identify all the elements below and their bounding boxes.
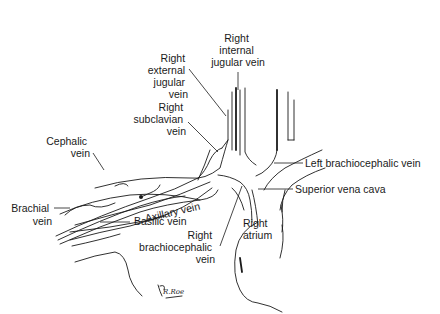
- label-right-brachiocephalic-vein: Right brachiocephalic vein: [139, 229, 215, 265]
- label-cephalic-vein: Cephalic vein: [46, 135, 90, 159]
- label-line: external: [148, 64, 185, 76]
- label-line: internal: [219, 44, 253, 56]
- artist-signature: R.Roe: [158, 285, 184, 298]
- label-line: vein: [169, 88, 188, 100]
- leader-right-subclavian: [188, 122, 218, 152]
- right-brachiocephalic-vein-wall: [218, 175, 252, 222]
- label-line: Right: [161, 52, 186, 64]
- labels: Right internal jugular vein Right extern…: [11, 32, 421, 265]
- label-right-external-jugular-vein: Right external jugular vein: [148, 52, 188, 100]
- label-line: Right: [159, 101, 184, 113]
- neck-vessel-junction: [256, 150, 277, 176]
- right-subclavian-upper-wall: [198, 148, 222, 178]
- label-brachial-vein: Brachial vein: [11, 202, 52, 227]
- label-right-atrium: Right atrium: [243, 217, 272, 241]
- venous-anatomy-diagram: Right internal jugular vein Right extern…: [0, 0, 440, 314]
- vessel-drawing: [56, 88, 325, 312]
- label-line: vein: [33, 215, 52, 227]
- label-line: jugular vein: [210, 56, 265, 68]
- label-basilic-vein: Basilic vein: [134, 215, 187, 227]
- label-line: Right: [243, 217, 268, 229]
- left-jugular-vein-shape: [288, 92, 294, 140]
- label-line: vein: [71, 147, 90, 159]
- label-line: vein: [196, 253, 215, 265]
- leader-right-external-jugular: [189, 69, 226, 116]
- right-atrium-shading: [240, 258, 242, 272]
- label-line: Brachial: [11, 202, 49, 214]
- label-right-subclavian-vein: Right subclavian vein: [133, 101, 186, 137]
- label-line: vein: [167, 125, 186, 137]
- leader-cephalic: [93, 153, 104, 170]
- label-left-brachiocephalic-vein: Left brachiocephalic vein: [305, 157, 421, 169]
- label-line: Right: [224, 32, 249, 44]
- label-line: brachiocephalic: [139, 241, 212, 253]
- label-line: atrium: [243, 229, 272, 241]
- label-line: Cephalic: [46, 135, 87, 147]
- cephalic-branch: [115, 184, 128, 187]
- label-right-internal-jugular-vein: Right internal jugular vein: [210, 32, 265, 68]
- signature-text: R.Roe: [162, 288, 184, 296]
- label-line: jugular: [153, 76, 186, 88]
- diagram-canvas: Right internal jugular vein Right extern…: [0, 0, 440, 314]
- right-brachiocephalic-shading: [232, 188, 244, 210]
- svc-detail: [282, 190, 285, 212]
- chest-outline: [75, 252, 142, 296]
- label-line: Right: [188, 229, 213, 241]
- right-atrium-right-edge: [280, 225, 283, 258]
- label-superior-vena-cava: Superior vena cava: [295, 183, 386, 195]
- leader-right-brachiocephalic: [220, 186, 242, 246]
- signature-underline: [166, 296, 182, 298]
- neck-vessel-wall-left: [245, 88, 256, 165]
- label-line: subclavian: [133, 113, 183, 125]
